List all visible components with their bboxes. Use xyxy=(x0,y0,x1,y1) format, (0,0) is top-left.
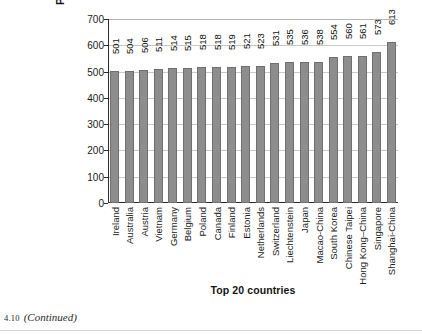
bar-slot: 518 xyxy=(212,19,221,203)
x-axis-title: Top 20 countries xyxy=(108,284,398,296)
bar[interactable] xyxy=(110,71,119,203)
x-tick-slot: Germany xyxy=(168,205,177,285)
y-tick-label-300: 300 xyxy=(87,119,104,130)
bar[interactable] xyxy=(343,56,352,203)
x-tick-label: Australia xyxy=(124,207,135,244)
bar[interactable] xyxy=(285,62,294,203)
bar-value-label: 515 xyxy=(182,17,193,51)
bar-value-label: 554 xyxy=(328,6,339,40)
bar-slot: 514 xyxy=(168,19,177,203)
bar[interactable] xyxy=(329,57,338,203)
bar-slot: 515 xyxy=(183,19,192,203)
y-tick-label-200: 200 xyxy=(87,145,104,156)
y-axis-title: PISA score (math) xyxy=(52,0,68,51)
bar-value-label: 514 xyxy=(167,17,178,51)
x-tick-slot: Australia xyxy=(125,205,134,285)
x-tick-slot: Liechtenstein xyxy=(285,205,294,285)
x-tick-label: Finland xyxy=(226,207,237,238)
bar[interactable] xyxy=(241,66,250,203)
x-tick-label: Macao-China xyxy=(313,207,324,264)
bar[interactable] xyxy=(387,42,396,203)
x-tick-label: Vietnam xyxy=(153,207,164,242)
bar-slot: 523 xyxy=(256,19,265,203)
x-tick-label: Canada xyxy=(211,207,222,240)
bar-slot: 538 xyxy=(314,19,323,203)
x-tick-label: Japan xyxy=(299,207,310,233)
x-tick-slot: Japan xyxy=(300,205,309,285)
x-tick-slot: Austria xyxy=(139,205,148,285)
bar-slot: 535 xyxy=(285,19,294,203)
y-axis-tick-labels: 0100200300400500600700 xyxy=(76,19,104,203)
x-tick-slot: Ireland xyxy=(110,205,119,285)
x-tick-label: Liechtenstein xyxy=(284,207,295,263)
bar-slot: 511 xyxy=(154,19,163,203)
bar-value-label: 519 xyxy=(226,16,237,50)
x-tick-label: Estonia xyxy=(240,207,251,239)
x-tick-slot: Vietnam xyxy=(154,205,163,285)
bar[interactable] xyxy=(197,67,206,203)
x-tick-label: South Korea xyxy=(328,207,339,260)
bar-slot: 519 xyxy=(227,19,236,203)
x-tick-slot: South Korea xyxy=(329,205,338,285)
x-tick-slot: Finland xyxy=(227,205,236,285)
x-tick-label: Poland xyxy=(196,207,207,237)
x-tick-label: Ireland xyxy=(109,207,120,236)
bar-value-label: 511 xyxy=(153,18,164,52)
bar-value-label: 523 xyxy=(255,15,266,49)
x-tick-slot: Switzerland xyxy=(270,205,279,285)
bar-value-label: 504 xyxy=(124,20,135,54)
y-tick-label-500: 500 xyxy=(87,66,104,77)
x-tick-label: Singapore xyxy=(371,207,382,250)
caption-number: 4.10 xyxy=(4,313,20,323)
x-tick-slot: Belgium xyxy=(183,205,192,285)
bar-slot: 506 xyxy=(139,19,148,203)
x-tick-slot: Estonia xyxy=(241,205,250,285)
bar[interactable] xyxy=(300,62,309,203)
x-tick-label: Germany xyxy=(167,207,178,246)
bar[interactable] xyxy=(154,69,163,203)
y-tick-0 xyxy=(104,203,108,204)
x-tick-label: Switzerland xyxy=(269,207,280,256)
x-tick-label: Shanghai-China xyxy=(386,207,397,275)
bar-value-label: 501 xyxy=(109,20,120,54)
bar[interactable] xyxy=(125,71,134,203)
x-tick-slot: Poland xyxy=(197,205,206,285)
figure-caption: 4.10(Continued) xyxy=(4,311,77,323)
x-tick-slot: Canada xyxy=(212,205,221,285)
bar-slot: 531 xyxy=(270,19,279,203)
bar-value-label: 613 xyxy=(386,0,397,25)
bar[interactable] xyxy=(270,63,279,203)
bar[interactable] xyxy=(227,67,236,203)
bar[interactable] xyxy=(358,56,367,203)
plot-area: 5015045065115145155185185195215235315355… xyxy=(108,19,398,203)
bar-series: 5015045065115145155185185195215235315355… xyxy=(108,19,398,203)
bar[interactable] xyxy=(372,52,381,203)
bar[interactable] xyxy=(314,62,323,203)
bar-value-label: 535 xyxy=(284,11,295,45)
bar[interactable] xyxy=(256,66,265,203)
bar-value-label: 560 xyxy=(342,5,353,39)
y-tick-label-600: 600 xyxy=(87,40,104,51)
bar[interactable] xyxy=(139,70,148,203)
bar-slot: 536 xyxy=(300,19,309,203)
bar-slot: 561 xyxy=(358,19,367,203)
y-tick-label-100: 100 xyxy=(87,171,104,182)
x-tick-slot: Singapore xyxy=(372,205,381,285)
bar-value-label: 538 xyxy=(313,11,324,45)
bar-value-label: 518 xyxy=(211,16,222,50)
x-tick-label: Chinese Taipei xyxy=(342,207,353,269)
bar-slot: 554 xyxy=(329,19,338,203)
bar-value-label: 531 xyxy=(269,12,280,46)
x-tick-slot: Chinese Taipei xyxy=(343,205,352,285)
figure-pisa-top20-bar-chart: PISA score (math) 0100200300400500600700… xyxy=(0,0,422,302)
bar[interactable] xyxy=(212,67,221,203)
bar-slot: 501 xyxy=(110,19,119,203)
bar-value-label: 518 xyxy=(196,16,207,50)
bar-value-label: 506 xyxy=(138,19,149,53)
bar-value-label: 521 xyxy=(240,15,251,49)
bar[interactable] xyxy=(183,68,192,203)
bar[interactable] xyxy=(168,68,177,203)
x-tick-slot: Shanghai-China xyxy=(387,205,396,285)
x-axis-tick-labels: IrelandAustraliaAustriaVietnamGermanyBel… xyxy=(108,205,398,285)
x-tick-slot: Netherlands xyxy=(256,205,265,285)
